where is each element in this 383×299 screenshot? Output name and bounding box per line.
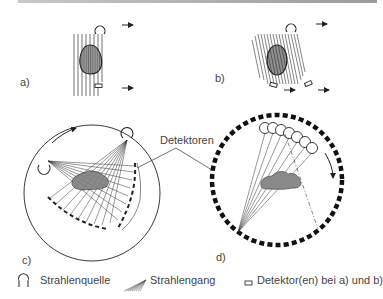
detector-array bbox=[48, 197, 108, 229]
x-ray-source-icon bbox=[307, 143, 318, 154]
detector-icon bbox=[95, 84, 102, 88]
panel-label-c: c) bbox=[22, 254, 31, 266]
panel-label-a: a) bbox=[20, 76, 30, 88]
panel-label-b: b) bbox=[215, 72, 225, 84]
panel-a-translate-rotate-pencil-beam bbox=[74, 25, 133, 96]
detectors-annotation: Detektoren bbox=[160, 134, 214, 146]
panel-label-d: d) bbox=[216, 251, 226, 263]
panel-c-rotate-rotate bbox=[24, 125, 160, 261]
detectors-leader-lines bbox=[137, 148, 212, 170]
object-cross-section bbox=[261, 172, 301, 190]
x-ray-source-icon bbox=[95, 26, 105, 34]
legend-item-detector: Detektor(en) bei a) und b) bbox=[257, 274, 383, 286]
legend-item-beam-path: Strahlengang bbox=[150, 274, 215, 286]
x-ray-source-icon bbox=[38, 165, 50, 174]
x-ray-source-icon bbox=[286, 24, 296, 32]
panel-b-translate-rotate-fan-beam bbox=[252, 24, 329, 90]
legend-item-source: Strahlenquelle bbox=[40, 274, 110, 286]
legend: Strahlenquelle Strahlengang Detektor(en)… bbox=[0, 270, 377, 292]
rotation-arrow-icon bbox=[325, 153, 333, 178]
panel-d-rotate-stationary bbox=[212, 115, 342, 245]
detector-icon bbox=[304, 80, 312, 86]
gantry-ring bbox=[24, 125, 160, 261]
detector-icon bbox=[270, 82, 278, 87]
object-cross-section bbox=[80, 45, 102, 74]
